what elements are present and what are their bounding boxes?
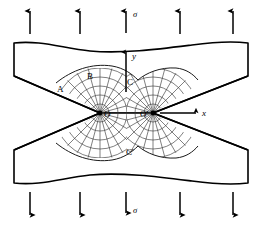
- bottom-load-arrows: [30, 192, 233, 215]
- notch-tip-dot-O: [98, 111, 103, 116]
- sigma-label-top: σ: [133, 9, 138, 19]
- point-label-A: A: [57, 84, 64, 94]
- fracture-mechanics-figure: σ: [0, 0, 261, 226]
- figure-svg: σ: [0, 0, 261, 226]
- origin-label-O-prime: O': [140, 109, 148, 119]
- point-label-C-prime: C': [126, 147, 134, 157]
- x-axis-label: x: [201, 108, 206, 118]
- y-axis-label: y: [131, 51, 136, 61]
- point-label-B: B: [87, 71, 93, 81]
- notch-tip-dot-O-prime: [151, 111, 156, 116]
- top-load-arrows: [30, 11, 233, 34]
- sigma-label-bottom: σ: [133, 205, 138, 215]
- origin-label-O: O: [104, 109, 111, 119]
- point-label-C: C: [127, 77, 133, 87]
